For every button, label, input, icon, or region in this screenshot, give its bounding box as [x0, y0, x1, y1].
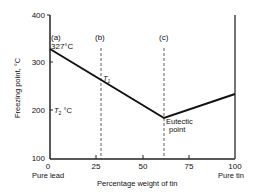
annotation-t1: T1 [103, 74, 111, 84]
x-tick-25: 25 [92, 162, 101, 171]
y-tick-400: 400 [32, 11, 46, 20]
y-tick-100: 100 [32, 154, 46, 163]
x-tick-75: 75 [185, 162, 194, 171]
y-axis-label: Freezing point, °C [13, 57, 22, 118]
x-tick-0: 0 [46, 162, 51, 171]
marker-c-label: (c) [159, 33, 169, 42]
annotation-t2: T2 °C [54, 106, 72, 116]
annotation-327c: 327°C [51, 42, 74, 51]
pure-lead-label: Pure lead [32, 171, 64, 180]
x-axis-label: Percentage weight of tin [97, 179, 177, 188]
marker-a-label: (a) [51, 33, 61, 42]
y-tick-200: 200 [32, 106, 46, 115]
freezing-point-chart: 400 300 200 100 0 25 50 75 100 Pure lead… [0, 0, 264, 192]
freezing-curve [50, 49, 235, 118]
annotation-eutectic: Eutecticpoint [166, 117, 193, 134]
marker-b-label: (b) [95, 33, 105, 42]
y-tick-300: 300 [32, 58, 46, 67]
x-tick-100: 100 [228, 162, 242, 171]
pure-tin-label: Pure tin [218, 171, 244, 180]
x-tick-50: 50 [139, 162, 148, 171]
